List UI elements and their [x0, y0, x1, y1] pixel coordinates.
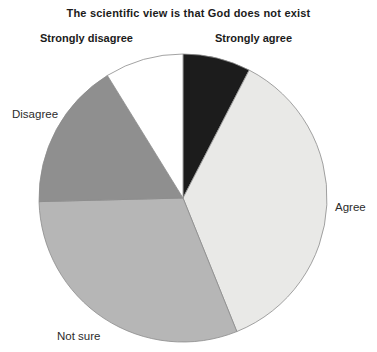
slice-label-strongly-disagree: Strongly disagree	[40, 32, 133, 44]
slice-label-not-sure: Not sure	[57, 330, 100, 342]
slice-label-strongly-agree: Strongly agree	[215, 32, 292, 44]
pie-chart	[0, 0, 377, 352]
slice-label-agree: Agree	[335, 201, 366, 213]
pie-chart-figure: The scientific view is that God does not…	[0, 0, 377, 352]
slice-label-disagree: Disagree	[12, 108, 58, 120]
